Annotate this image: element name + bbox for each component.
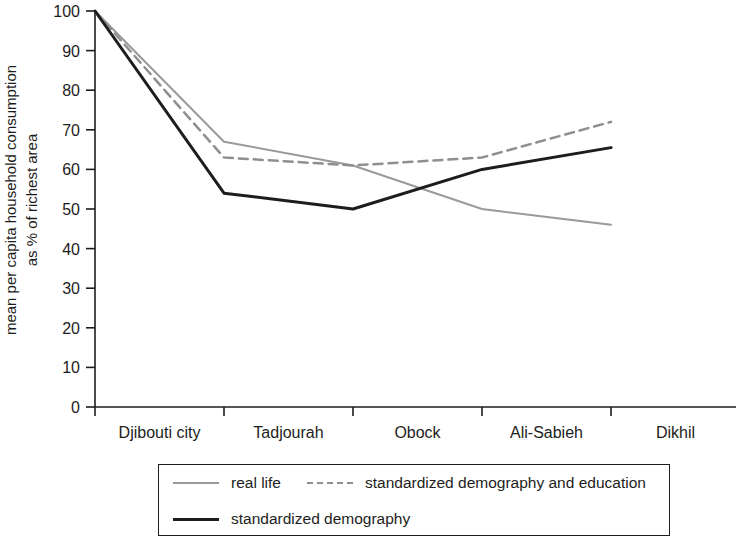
- legend-swatch-dashed-gray-icon: [307, 482, 353, 484]
- plot-area: 0102030405060708090100 Djibouti cityTadj…: [0, 0, 736, 460]
- y-axis-tick-label: 10: [62, 359, 80, 376]
- y-axis-tick-label: 50: [62, 201, 80, 218]
- x-axis-tick-label: Obock: [394, 424, 441, 441]
- data-series-group: [95, 11, 611, 225]
- legend-label: standardized demography: [231, 510, 410, 528]
- chart-figure: mean per capita household consumption as…: [0, 0, 736, 541]
- y-axis-tick-label: 30: [62, 280, 80, 297]
- x-axis-ticks: [95, 407, 611, 416]
- y-axis-tick-label: 0: [71, 399, 80, 416]
- legend-swatch-solid-gray-icon: [173, 482, 219, 484]
- y-axis-tick-label: 60: [62, 161, 80, 178]
- legend-row: real lifestandardized demography and edu…: [159, 465, 669, 501]
- x-axis-tick-labels: Djibouti cityTadjourahObockAli-SabiehDik…: [119, 424, 695, 441]
- legend-label: standardized demography and education: [365, 474, 646, 492]
- x-axis-tick-label: Tadjourah: [253, 424, 323, 441]
- y-axis-tick-label: 100: [53, 3, 80, 20]
- chart-legend: real lifestandardized demography and edu…: [158, 464, 670, 536]
- y-axis-ticks: 0102030405060708090100: [53, 3, 95, 416]
- x-axis-tick-label: Ali-Sabieh: [510, 424, 583, 441]
- y-axis-tick-label: 90: [62, 43, 80, 60]
- y-axis-tick-label: 40: [62, 241, 80, 258]
- legend-item: standardized demography and education: [307, 474, 646, 492]
- series-line-2: [95, 11, 611, 209]
- legend-row: standardized demography: [159, 501, 669, 537]
- y-axis-tick-label: 70: [62, 122, 80, 139]
- legend-swatch-solid-black-icon: [173, 518, 219, 521]
- y-axis-tick-label: 80: [62, 82, 80, 99]
- legend-item: real life: [173, 474, 281, 492]
- x-axis-tick-label: Djibouti city: [119, 424, 201, 441]
- legend-label: real life: [231, 474, 281, 492]
- y-axis-tick-label: 20: [62, 320, 80, 337]
- x-axis-tick-label: Dikhil: [656, 424, 695, 441]
- legend-item: standardized demography: [173, 510, 410, 528]
